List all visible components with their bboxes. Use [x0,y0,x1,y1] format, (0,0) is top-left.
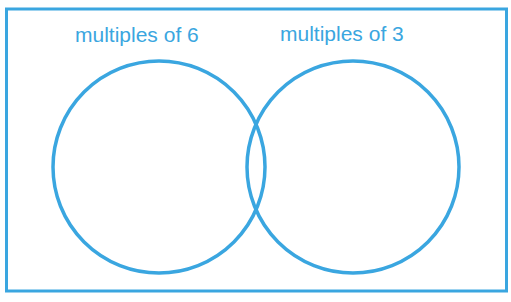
venn-diagram: multiples of 6 multiples of 3 [0,0,511,302]
universal-set-rectangle [7,9,507,291]
set-label-multiples-of-3: multiples of 3 [280,22,404,45]
set-circle-multiples-of-6 [53,61,265,273]
set-circle-multiples-of-3 [247,61,459,273]
set-label-multiples-of-6: multiples of 6 [75,23,199,46]
